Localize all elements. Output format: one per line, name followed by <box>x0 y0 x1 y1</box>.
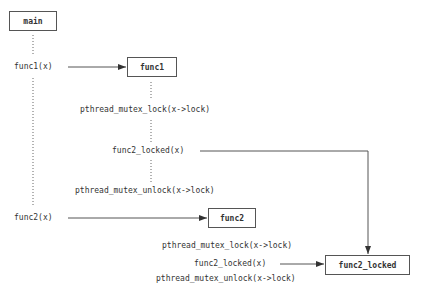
func2-lock-label: pthread_mutex_lock(x->lock) <box>162 241 292 250</box>
func2-box: func2 <box>208 208 256 228</box>
func2-unlock-label: pthread_mutex_unlock(x->lock) <box>156 274 296 283</box>
connectors <box>0 0 422 296</box>
func2-call-locked-label: func2_locked(x) <box>194 259 266 268</box>
func1-call-locked-label: func2_locked(x) <box>112 146 184 155</box>
call-func1-label: func1(x) <box>14 62 53 71</box>
arrow-func1-to-locked <box>200 151 368 254</box>
main-box: main <box>9 11 57 31</box>
func2-locked-box: func2_locked <box>325 255 410 275</box>
func1-unlock-label: pthread_mutex_unlock(x->lock) <box>75 186 215 195</box>
call-func2-label: func2(x) <box>14 213 53 222</box>
func1-box: func1 <box>127 57 177 77</box>
func1-lock-label: pthread_mutex_lock(x->lock) <box>80 105 210 114</box>
